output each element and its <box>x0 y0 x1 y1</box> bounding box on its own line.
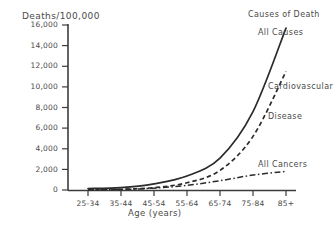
y-tick-label: 6,000 <box>14 123 58 132</box>
y-tick-label: 10,000 <box>14 82 58 91</box>
x-tick-label: 85+ <box>264 199 308 208</box>
x-tick-marks <box>88 191 286 197</box>
y-tick-label: 14,000 <box>14 41 58 50</box>
x-axis-title: Age (years) <box>128 208 182 218</box>
y-tick-label: 8,000 <box>14 103 58 112</box>
series-line-all-causes <box>88 28 286 188</box>
y-tick-label: 12,000 <box>14 61 58 70</box>
series-label-all-cancers: All Cancers <box>258 160 307 170</box>
chart-figure: Deaths/100,000 Age (years) 16,000 14,000… <box>0 0 334 239</box>
y-tick-label: 4,000 <box>14 144 58 153</box>
series-line-cardiovascular-disease <box>88 71 286 189</box>
y-tick-label: 16,000 <box>14 20 58 29</box>
y-tick-label: 2,000 <box>14 165 58 174</box>
series-label-all-causes: All Causes <box>258 28 303 38</box>
y-tick-marks <box>62 25 68 190</box>
y-tick-label: 0 <box>14 185 58 194</box>
series-label-cardiovascular-disease: Cardiovascular Disease <box>268 62 333 142</box>
series-label-cardio-line1: Cardiovascular <box>268 82 333 92</box>
chart-title: Causes of Death <box>248 10 320 19</box>
series-label-cardio-line2: Disease <box>268 112 333 122</box>
